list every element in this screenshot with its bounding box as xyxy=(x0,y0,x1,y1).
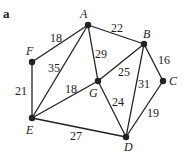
node-A xyxy=(85,22,91,28)
node-E xyxy=(29,115,35,121)
node-label-A: A xyxy=(79,7,88,21)
edge-weight-EG: 18 xyxy=(65,82,77,96)
node-label-B: B xyxy=(143,27,151,41)
node-label-F: F xyxy=(25,44,34,58)
node-label-C: C xyxy=(169,74,178,88)
node-F xyxy=(29,59,35,65)
node-G xyxy=(95,78,101,84)
edge-weight-BG: 25 xyxy=(118,65,130,79)
node-C xyxy=(160,78,166,84)
edge-weight-BC: 16 xyxy=(158,53,170,67)
node-label-E: E xyxy=(25,123,34,137)
edge-weight-AE: 35 xyxy=(48,61,60,75)
node-label-D: D xyxy=(123,140,133,154)
edge-weight-AG: 29 xyxy=(95,47,107,61)
edge-weight-AF: 18 xyxy=(50,31,62,45)
edge-weight-GD: 24 xyxy=(112,95,124,109)
figure-label: a xyxy=(3,6,10,21)
edge-weight-BD: 31 xyxy=(138,77,150,91)
node-label-G: G xyxy=(89,86,98,100)
edge-weight-FE: 21 xyxy=(15,84,27,98)
edge-weight-ED: 27 xyxy=(70,129,82,143)
weighted-graph: a 221835291625312118241927 ABCGFED xyxy=(0,0,189,159)
node-B xyxy=(141,41,147,47)
edge-GD xyxy=(98,81,126,137)
edge-weight-CD: 19 xyxy=(147,106,159,120)
edge-weight-AB: 22 xyxy=(111,21,123,35)
